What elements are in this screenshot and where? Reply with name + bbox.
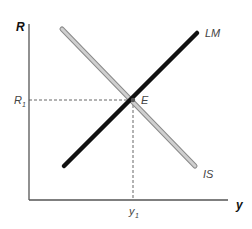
y-axis-label: R <box>16 20 25 34</box>
lm-label: LM <box>205 27 221 39</box>
svg-text:1: 1 <box>22 101 26 108</box>
x-axis-label: y <box>235 198 244 212</box>
svg-text:R: R <box>14 94 22 106</box>
svg-text:1: 1 <box>135 212 139 219</box>
is-label: IS <box>203 168 214 180</box>
y1-label: y 1 <box>128 205 139 219</box>
equilibrium-point <box>131 98 135 102</box>
equilibrium-label: E <box>141 94 149 106</box>
is-lm-diagram: R y LM IS E R 1 y 1 <box>0 0 252 229</box>
r1-label: R 1 <box>14 94 26 108</box>
